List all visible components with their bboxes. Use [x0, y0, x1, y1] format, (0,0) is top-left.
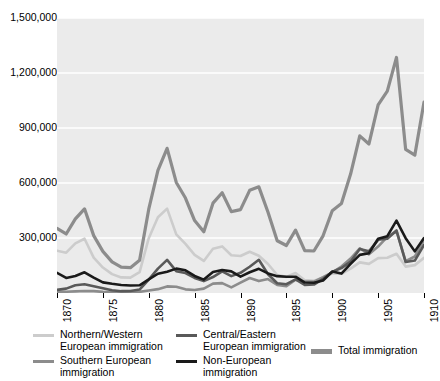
y-axis-tick-label: 300,000 — [5, 232, 57, 243]
x-axis-tick — [424, 293, 425, 298]
legend-color-swatch — [33, 334, 54, 337]
legend-label: Central/Eastern European immigration — [203, 329, 306, 352]
y-axis-tick-label: 900,000 — [5, 122, 57, 133]
legend-entry[interactable]: Non-European immigration — [176, 355, 271, 378]
legend-entry[interactable]: Central/Eastern European immigration — [176, 329, 306, 352]
x-axis-tick — [241, 293, 242, 298]
legend-color-swatch — [176, 360, 197, 363]
y-axis-tick-label: 600,000 — [5, 177, 57, 188]
legend-label: Non-European immigration — [203, 355, 271, 378]
legend-entry[interactable]: Northern/Western European immigration — [33, 329, 163, 352]
x-axis-tick — [149, 293, 150, 298]
x-axis-tick-label: 1875 — [107, 299, 119, 322]
x-axis-tick — [195, 293, 196, 298]
series-line — [57, 57, 424, 267]
legend-entry[interactable]: Southern European immigration — [33, 355, 151, 378]
legend-color-swatch — [176, 334, 197, 337]
legend-entry[interactable]: Total immigration — [311, 345, 417, 357]
series-line — [57, 209, 424, 281]
chart-legend: Northern/Western European immigrationCen… — [0, 329, 437, 381]
x-axis-tick — [332, 293, 333, 298]
series-line — [57, 221, 424, 286]
x-axis-tick-label: 1885 — [199, 299, 211, 322]
x-axis-tick-label: 1905 — [382, 299, 394, 322]
legend-color-swatch — [311, 349, 332, 354]
series-lines — [57, 57, 424, 292]
plot-svg — [57, 18, 424, 293]
x-axis-tick — [378, 293, 379, 298]
plot-area — [57, 18, 424, 293]
x-axis-tick-label: 1890 — [245, 299, 257, 322]
x-axis-tick-label: 1895 — [290, 299, 302, 322]
y-axis: 300,000600,000900,0001,200,0001,500,000 — [0, 0, 57, 300]
legend-color-swatch — [33, 360, 54, 363]
y-axis-tick-label: 1,200,000 — [5, 67, 57, 78]
x-axis-tick-label: 1870 — [61, 299, 73, 322]
y-axis-tick-label: 1,500,000 — [5, 12, 57, 23]
x-axis-tick — [286, 293, 287, 298]
legend-label: Northern/Western European immigration — [60, 329, 163, 352]
x-axis-tick-label: 1900 — [336, 299, 348, 322]
x-axis-tick — [103, 293, 104, 298]
legend-label: Total immigration — [338, 345, 417, 357]
x-axis-tick — [57, 293, 58, 298]
x-axis-tick-label: 1880 — [153, 299, 165, 322]
x-axis-tick-label: 1910 — [428, 299, 440, 322]
gridlines — [57, 18, 424, 238]
legend-label: Southern European immigration — [60, 355, 151, 378]
